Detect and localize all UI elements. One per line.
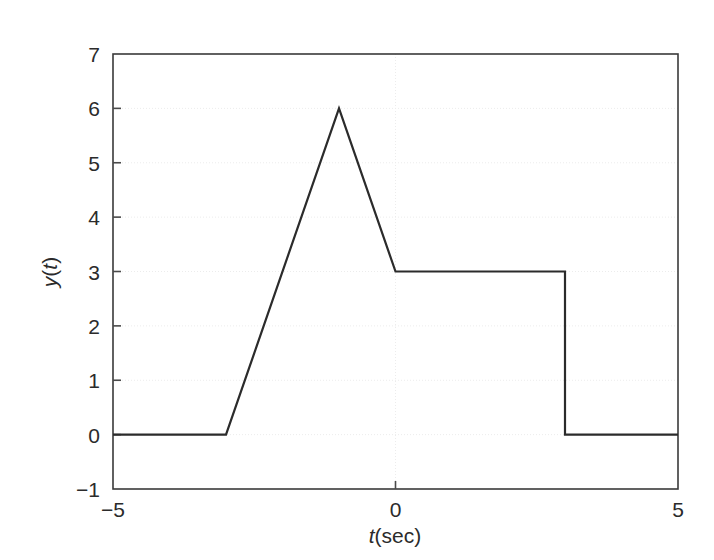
y-tick-label: 5 — [88, 152, 100, 175]
y-tick-label: 2 — [88, 315, 100, 338]
x-axis-label-text: t(sec) — [369, 524, 422, 547]
y-axis-label-text: y(t) — [38, 257, 61, 289]
y-tick-label: 3 — [88, 261, 100, 284]
y-tick-label: 6 — [88, 97, 100, 120]
x-axis-label: t(sec) — [369, 524, 422, 547]
y-tick-label: 0 — [88, 424, 100, 447]
figure-container: −505 −101234567 t(sec) y(t) — [0, 0, 714, 560]
chart-background — [0, 0, 714, 560]
y-axis-label: y(t) — [38, 257, 61, 289]
y-tick-label: 4 — [88, 206, 100, 229]
y-tick-label: 7 — [88, 43, 100, 66]
x-tick-label: −5 — [101, 498, 125, 521]
line-chart: −505 −101234567 t(sec) y(t) — [0, 0, 714, 560]
y-tick-label: −1 — [76, 478, 100, 501]
y-tick-label: 1 — [88, 369, 100, 392]
x-tick-label: 5 — [672, 498, 684, 521]
x-tick-label: 0 — [390, 498, 402, 521]
